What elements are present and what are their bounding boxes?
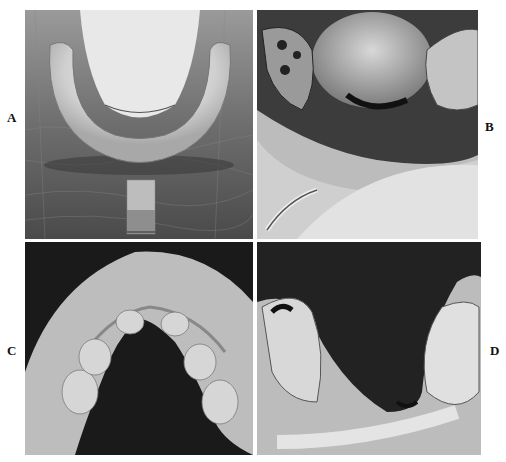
figure-panel-c — [25, 242, 253, 455]
figure-panel-a — [25, 10, 253, 239]
panel-label-d: D — [490, 343, 499, 359]
figure-panel-b — [257, 10, 478, 239]
panel-b-image — [257, 10, 478, 239]
panel-a-image — [25, 10, 253, 239]
panel-label-a: A — [7, 110, 16, 126]
panel-c-image — [25, 242, 253, 455]
panel-label-c: C — [7, 343, 16, 359]
panel-d-image — [257, 242, 481, 455]
panel-label-b: B — [485, 119, 494, 135]
figure-panel-d — [257, 242, 481, 455]
